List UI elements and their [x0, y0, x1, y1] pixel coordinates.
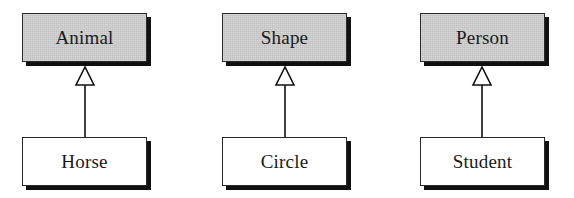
- class-box-shape: Shape: [222, 13, 347, 62]
- class-box-student: Student: [420, 137, 545, 186]
- hollow-triangle-arrow-icon: [276, 67, 294, 85]
- class-name: Animal: [55, 27, 113, 49]
- class-box-person: Person: [420, 13, 545, 62]
- class-name: Person: [456, 27, 509, 49]
- class-box-circle: Circle: [222, 137, 347, 186]
- class-name: Shape: [261, 27, 308, 49]
- class-box-horse: Horse: [22, 137, 147, 186]
- class-box-animal: Animal: [22, 13, 147, 62]
- hollow-triangle-arrow-icon: [473, 67, 491, 85]
- connector-animal-horse: [76, 67, 94, 137]
- connector-shape-circle: [276, 67, 294, 137]
- connector-person-student: [473, 67, 491, 137]
- class-name: Student: [453, 151, 512, 173]
- inheritance-diagram: Animal Horse Shape Circle Person Student: [0, 0, 574, 198]
- class-name: Circle: [261, 151, 309, 173]
- hollow-triangle-arrow-icon: [76, 67, 94, 85]
- class-name: Horse: [61, 151, 107, 173]
